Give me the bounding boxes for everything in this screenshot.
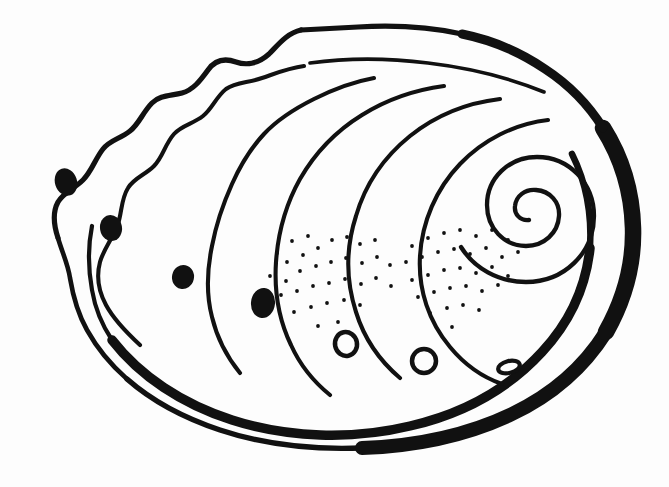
- abalone-shell-drawing: [0, 0, 669, 487]
- illustration-canvas: Abalone Shell Line Illustration: [0, 0, 669, 487]
- canvas-background: [0, 0, 669, 487]
